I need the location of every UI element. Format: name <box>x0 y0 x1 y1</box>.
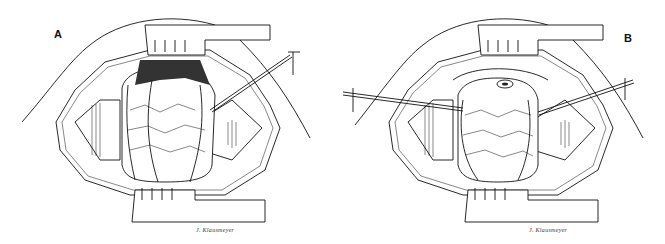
artist-signature-b: J. Klausmeyer <box>529 227 567 233</box>
panel-label-b: B <box>624 32 632 44</box>
illustration-panel-a: A J. Klausmeyer <box>0 0 332 244</box>
surgical-illustration-a <box>0 0 332 244</box>
illustration-panel-b: B J. Klausmeyer <box>333 0 665 244</box>
artist-signature-a: J. Klausmeyer <box>196 227 234 233</box>
surgical-illustration-b <box>333 0 665 244</box>
panel-label-a: A <box>54 28 62 40</box>
